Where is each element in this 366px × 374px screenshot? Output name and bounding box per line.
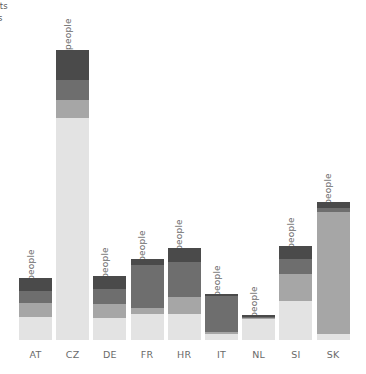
bar-group-it[interactable]: 2.0 peopleIT [205, 294, 238, 340]
stacked-bar[interactable] [168, 248, 201, 340]
bar-group-at[interactable]: 2.7 peopleAT [19, 278, 52, 340]
bar-group-sk[interactable]: 6.0 peopleSK [317, 202, 350, 340]
bar-segment-4[interactable] [56, 118, 89, 340]
stacked-bar[interactable] [93, 276, 126, 340]
bar-group-cz[interactable]: 12.6 peopleCZ [56, 50, 89, 340]
bar-group-nl[interactable]: 1.1 peopleNL [242, 315, 275, 340]
bar-segment-3[interactable] [168, 297, 201, 313]
bar-segment-2[interactable] [131, 265, 164, 308]
bar-group-hr[interactable]: 4.0 peopleHR [168, 248, 201, 340]
stacked-bar[interactable] [131, 259, 164, 340]
bar-segment-2[interactable] [205, 296, 238, 332]
stacked-bar[interactable] [56, 50, 89, 340]
bar-segment-4[interactable] [279, 301, 312, 340]
x-tick-label-it: IT [205, 340, 238, 360]
stacked-bar[interactable] [242, 315, 275, 340]
bar-segment-1[interactable] [93, 276, 126, 290]
bar-segment-1[interactable] [279, 246, 312, 260]
x-tick-label-hr: HR [168, 340, 201, 360]
x-tick-label-sk: SK [317, 340, 350, 360]
bar-segment-3[interactable] [279, 274, 312, 300]
x-tick-label-si: SI [279, 340, 312, 360]
stacked-bar[interactable] [317, 202, 350, 340]
bar-segment-2[interactable] [93, 289, 126, 304]
x-tick-label-cz: CZ [56, 340, 89, 360]
x-tick-label-nl: NL [242, 340, 275, 360]
x-tick-label-de: DE [93, 340, 126, 360]
bar-segment-1[interactable] [168, 248, 201, 262]
bar-segment-2[interactable] [168, 262, 201, 298]
bar-group-fr[interactable]: 3.5 peopleFR [131, 259, 164, 340]
bar-group-de[interactable]: 2.8 peopleDE [93, 276, 126, 340]
bar-segment-4[interactable] [168, 314, 201, 340]
bar-segment-3[interactable] [19, 303, 52, 317]
bar-segment-4[interactable] [242, 319, 275, 340]
plot-area: 2.7 peopleAT12.6 peopleCZ2.8 peopleDE3.5… [0, 0, 366, 374]
x-tick-label-fr: FR [131, 340, 164, 360]
chart-root: ogists gists 2.7 peopleAT12.6 peopleCZ2.… [0, 0, 366, 374]
bar-segment-1[interactable] [19, 278, 52, 291]
bar-segment-3[interactable] [56, 100, 89, 118]
bar-segment-4[interactable] [131, 314, 164, 340]
bar-segment-1[interactable] [56, 50, 89, 80]
bar-segment-2[interactable] [56, 80, 89, 100]
stacked-bar[interactable] [205, 294, 238, 340]
bar-segment-3[interactable] [93, 304, 126, 318]
bar-segment-2[interactable] [279, 259, 312, 274]
bar-segment-4[interactable] [19, 317, 52, 340]
bar-group-si[interactable]: 4.1 peopleSI [279, 246, 312, 340]
bar-segment-4[interactable] [93, 318, 126, 340]
x-tick-label-at: AT [19, 340, 52, 360]
bar-segment-3[interactable] [317, 212, 350, 334]
stacked-bar[interactable] [19, 278, 52, 340]
bar-segment-2[interactable] [19, 291, 52, 304]
stacked-bar[interactable] [279, 246, 312, 340]
